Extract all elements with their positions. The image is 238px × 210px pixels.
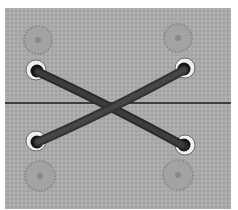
- stitch-circle-bottom-right: [163, 160, 193, 190]
- fabric-lacing-photo: [5, 8, 231, 209]
- lacing-illustration: [5, 8, 231, 209]
- stitch-circle-top-right: [164, 24, 192, 52]
- stitch-circle-top-left: [24, 26, 52, 54]
- stitch-circle-bottom-left: [25, 161, 55, 191]
